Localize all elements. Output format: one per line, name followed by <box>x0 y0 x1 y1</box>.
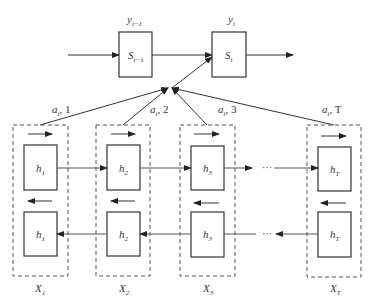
encoder-column-T: hT hT XT <box>307 125 361 297</box>
input-label: X3 <box>202 282 214 297</box>
context-arrow <box>172 57 212 88</box>
attention-label-2: at, 2 <box>150 103 168 118</box>
encoder-column-1: h1 h1 X1 <box>13 125 68 297</box>
attention-label-T: at, T <box>322 103 342 118</box>
attention-line-3 <box>172 88 207 125</box>
attention-line-T <box>172 88 334 125</box>
input-label: X2 <box>118 282 130 297</box>
encoder-column-2: h2 h2 X2 <box>96 125 150 297</box>
attention-lines: at, 1 at, 2 at, 3 at, T <box>40 88 342 125</box>
forward-ellipsis: ··· <box>262 162 272 173</box>
encoder-column-3: h3 h3 X3 <box>180 125 235 297</box>
output-label-current: yt <box>227 13 236 28</box>
attention-label-3: at, 3 <box>218 103 237 118</box>
decoder-row: yt−1 yt St−1 St <box>68 13 293 88</box>
attention-label-1: at, 1 <box>52 103 70 118</box>
state-box-prev <box>119 32 152 77</box>
input-label: X1 <box>34 282 45 297</box>
output-label-prev: yt−1 <box>126 13 142 28</box>
backward-ellipsis: ··· <box>262 228 272 239</box>
diagram-canvas: yt−1 yt St−1 St at, 1 at, 2 at, 3 at, T … <box>0 0 374 306</box>
input-label: XT <box>329 282 342 297</box>
